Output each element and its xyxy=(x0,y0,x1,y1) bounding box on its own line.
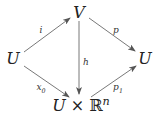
x0-subscript: 0 xyxy=(42,87,46,94)
times-symbol: × xyxy=(71,96,84,115)
label-p: p xyxy=(113,26,119,35)
product-base: U xyxy=(52,96,65,115)
label-x0: x0 xyxy=(36,83,45,94)
arrow-x0 xyxy=(24,66,69,97)
commutative-diagram: U V U U × ℝn i p h x0 p1 xyxy=(0,0,158,117)
node-top-V: V xyxy=(73,5,85,21)
p1-subscript: 1 xyxy=(119,87,123,94)
label-p1: p1 xyxy=(113,83,123,94)
arrow-p xyxy=(89,18,135,51)
node-bottom-product: U × ℝn xyxy=(52,96,110,114)
label-h: h xyxy=(83,58,89,67)
node-right-U: U xyxy=(138,51,151,67)
reals-symbol: ℝ xyxy=(89,96,102,115)
label-i: i xyxy=(40,26,43,35)
arrow-i xyxy=(24,18,70,52)
node-left-U: U xyxy=(6,51,19,67)
exponent-n: n xyxy=(103,95,110,108)
